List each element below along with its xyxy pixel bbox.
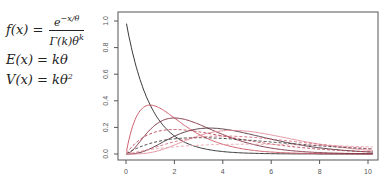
y-tick-label: 0.0 xyxy=(102,149,109,159)
y-tick-label: 1.0 xyxy=(102,16,109,26)
y-tick-label: 0.4 xyxy=(102,96,109,106)
x-tick-label: 6 xyxy=(269,168,273,175)
y-tick-label: 0.8 xyxy=(102,43,109,53)
x-axis: 0246810 xyxy=(124,160,372,175)
y-tick-label: 0.2 xyxy=(102,122,109,132)
x-tick-label: 2 xyxy=(172,168,176,175)
x-tick-label: 8 xyxy=(318,168,322,175)
density-curve xyxy=(127,136,373,154)
x-tick-label: 0 xyxy=(124,168,128,175)
x-tick-label: 10 xyxy=(364,168,372,175)
curves xyxy=(127,24,373,154)
gamma-density-chart: 0.00.20.40.60.81.0 0246810 xyxy=(0,0,391,180)
y-axis: 0.00.20.40.60.81.0 xyxy=(102,16,118,159)
plot-frame xyxy=(118,12,378,160)
x-tick-label: 4 xyxy=(221,168,225,175)
y-tick-label: 0.6 xyxy=(102,69,109,79)
density-curve xyxy=(127,118,373,154)
